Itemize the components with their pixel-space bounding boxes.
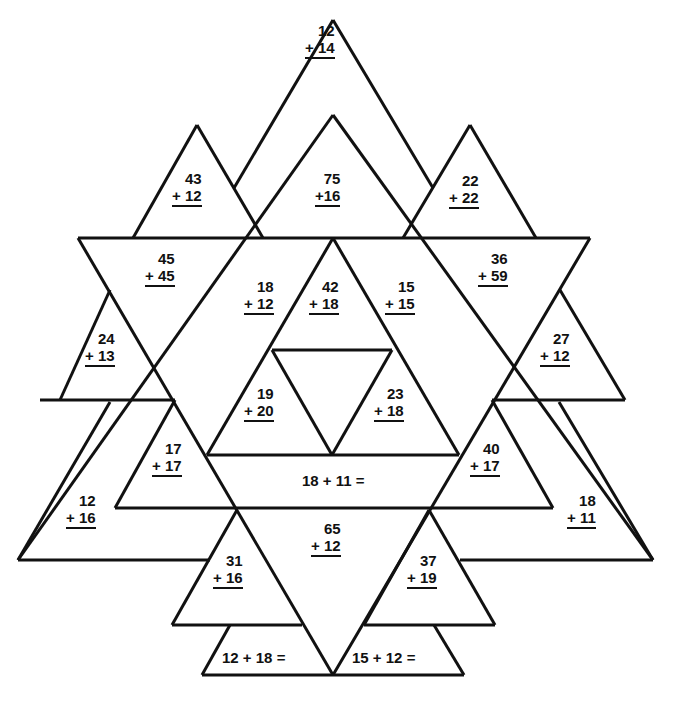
addend-top: 75 [315,170,340,187]
addend-top: 18 [244,278,274,295]
addend-top: 24 [85,330,115,347]
addend-top: 12 [305,22,335,39]
addend-top: 18 [567,492,596,509]
addition-problem-p16: 12+ 16 [66,492,96,529]
addition-problem-p3: 75+16 [315,170,340,207]
addition-problem-p13: 23+ 18 [374,385,404,422]
addend-bottom: + 12 [311,537,341,557]
addend-bottom: + 16 [66,509,96,529]
addend-bottom: + 16 [213,569,243,589]
addend-top: 65 [311,520,341,537]
addition-problem-p19: 31+ 16 [213,552,243,589]
addend-top: 12 [66,492,96,509]
addition-problem-p18: 65+ 12 [311,520,341,557]
addition-problem-p5: 45+ 45 [145,250,175,287]
addend-top: 22 [449,172,479,189]
addend-top: 37 [407,552,437,569]
addend-bottom: + 13 [85,347,115,367]
addition-problem-p4: 22+ 22 [449,172,479,209]
addition-problem-p12: 19+ 20 [244,385,274,422]
addend-top: 43 [172,170,202,187]
equation-e2: 12 + 18 = [222,649,285,666]
addition-problem-p7: 18+ 12 [244,278,274,315]
addend-top: 36 [478,250,508,267]
addend-bottom: + 45 [145,267,175,287]
equation-e3: 15 + 12 = [352,649,415,666]
addition-problem-p1: 12+ 14 [305,22,335,59]
addend-top: 31 [213,552,243,569]
addend-bottom: +16 [315,187,340,207]
addend-top: 45 [145,250,175,267]
addend-top: 23 [374,385,404,402]
addend-bottom: + 15 [385,295,415,315]
addition-problem-p11: 27+ 12 [540,330,570,367]
addend-bottom: + 14 [305,39,335,59]
addend-bottom: + 12 [540,347,570,367]
addend-bottom: + 18 [374,402,404,422]
addition-problem-p17: 18+ 11 [567,492,596,529]
addend-bottom: + 11 [567,509,596,529]
addend-top: 19 [244,385,274,402]
addition-problem-p6: 36+ 59 [478,250,508,287]
addend-bottom: + 12 [244,295,274,315]
addition-problem-p9: 15+ 15 [385,278,415,315]
addition-problem-p14: 17+ 17 [152,440,182,477]
addend-bottom: + 12 [172,187,202,207]
addend-bottom: + 22 [449,189,479,209]
addend-top: 17 [152,440,182,457]
addition-problem-p20: 37+ 19 [407,552,437,589]
addition-problem-p2: 43+ 12 [172,170,202,207]
addend-bottom: + 17 [152,457,182,477]
addend-bottom: + 19 [407,569,437,589]
addition-problem-p8: 42+ 18 [309,278,339,315]
addition-problem-p15: 40+ 17 [470,440,500,477]
addend-top: 27 [540,330,570,347]
addition-problem-p10: 24+ 13 [85,330,115,367]
addend-bottom: + 20 [244,402,274,422]
equation-e1: 18 + 11 = [302,472,365,489]
addend-bottom: + 59 [478,267,508,287]
addend-bottom: + 18 [309,295,339,315]
addend-top: 15 [385,278,415,295]
addend-bottom: + 17 [470,457,500,477]
addend-top: 42 [309,278,339,295]
addend-top: 40 [470,440,500,457]
